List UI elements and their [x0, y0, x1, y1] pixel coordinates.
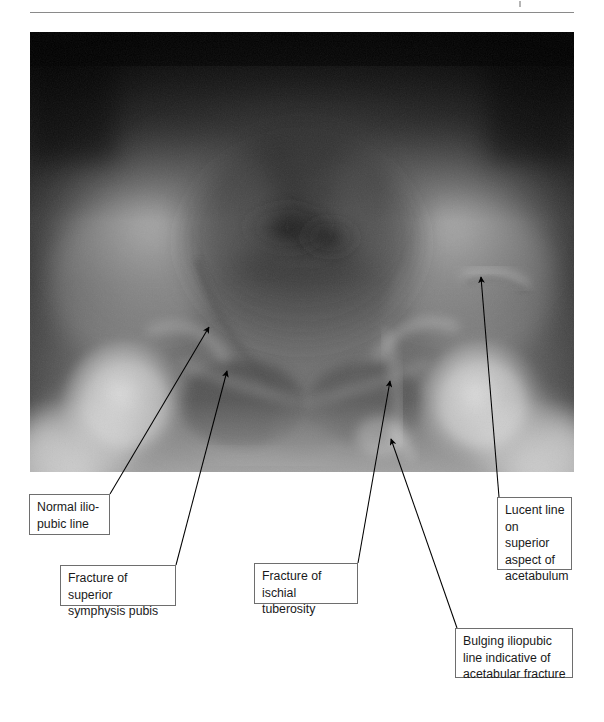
- annotation-label-bulging-iliopubic-line: Bulging iliopubic line indicative of ace…: [455, 628, 573, 678]
- annotation-label-fracture-superior-symphysis-pubis: Fracture of superior symphysis pubis: [60, 565, 176, 606]
- figure-page: Normal ilio- pubic line Fracture of supe…: [0, 0, 604, 722]
- annotation-label-fracture-ischial-tuberosity: Fracture of ischial tuberosity: [254, 563, 358, 604]
- page-header-rule: [30, 12, 574, 13]
- header-text-artifact: [519, 1, 521, 7]
- pelvis-radiograph: [30, 32, 574, 472]
- annotation-label-normal-iliopubic-line: Normal ilio- pubic line: [29, 494, 110, 535]
- radiograph-canvas: [30, 32, 574, 472]
- annotation-label-lucent-line-superior-acetabulum: Lucent line on superior aspect of acetab…: [497, 497, 572, 570]
